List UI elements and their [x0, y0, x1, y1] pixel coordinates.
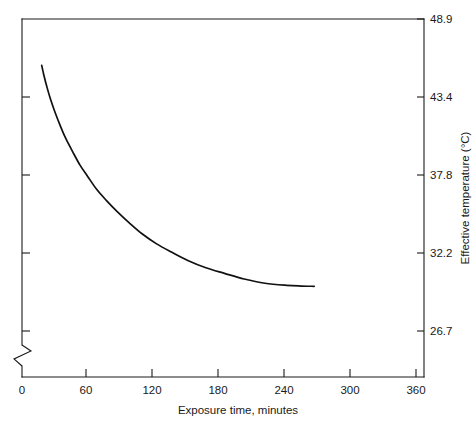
y-axis-break-zigzag: [14, 345, 31, 366]
line-chart-svg: 48.9 43.4 37.8 32.2 26.7 0 60 120 180 24…: [0, 0, 476, 421]
x-ticks: [86, 369, 416, 377]
x-tick-label-180: 180: [208, 384, 227, 396]
x-axis-title: Exposure time, minutes: [178, 404, 298, 416]
y-tick-label-37-8: 37.8: [430, 169, 452, 181]
axis-break-icon: [14, 345, 31, 366]
chart-figure: 48.9 43.4 37.8 32.2 26.7 0 60 120 180 24…: [0, 0, 476, 421]
x-tick-label-0: 0: [19, 384, 25, 396]
y-ticks-left: [22, 97, 30, 331]
y-tick-labels: 48.9 43.4 37.8 32.2 26.7: [430, 13, 453, 337]
x-tick-labels: 0 60 120 180 240 300 360: [19, 384, 426, 396]
y-tick-label-43-4: 43.4: [430, 91, 453, 103]
y-tick-label-32-2: 32.2: [430, 247, 452, 259]
data-series-line: [42, 65, 315, 286]
y-axis-title: Effective temperature (°C): [459, 131, 471, 264]
x-tick-label-240: 240: [274, 384, 293, 396]
x-tick-label-120: 120: [142, 384, 161, 396]
x-tick-label-60: 60: [80, 384, 93, 396]
y-tick-label-48-9: 48.9: [430, 13, 452, 25]
x-tick-label-360: 360: [406, 384, 425, 396]
x-tick-label-300: 300: [340, 384, 359, 396]
y-ticks-right: [417, 19, 424, 331]
plot-frame: [22, 19, 424, 377]
y-tick-label-26-7: 26.7: [430, 325, 452, 337]
